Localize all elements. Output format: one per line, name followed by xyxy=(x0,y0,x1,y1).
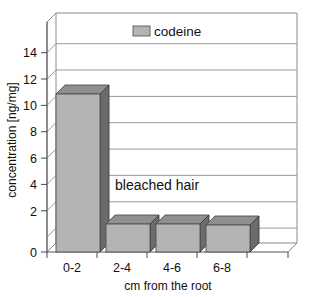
annotation-bleached-hair: bleached hair xyxy=(115,177,199,193)
x-tick-label-6-8: 6-8 xyxy=(213,261,231,275)
gridline-12-depth xyxy=(47,70,56,79)
legend-swatch-codeine xyxy=(133,26,150,36)
bar-front-2-4 xyxy=(106,224,150,252)
x-axis xyxy=(47,252,288,258)
gridline-0-depth xyxy=(47,228,56,237)
gridline-4-depth xyxy=(47,175,56,184)
gridline-10-depth xyxy=(47,96,56,105)
y-axis xyxy=(41,22,47,252)
legend: codeine xyxy=(133,24,201,39)
y-tick-label-2: 2 xyxy=(30,205,37,219)
bar-group-0-2 xyxy=(56,85,109,252)
y-tick-labels: 14 12 10 8 6 4 2 0 xyxy=(23,46,37,260)
gridline-2-depth xyxy=(47,202,56,211)
x-tick-label-2-4: 2-4 xyxy=(113,261,131,275)
y-tick-label-12: 12 xyxy=(23,73,37,87)
bar-group-6-8 xyxy=(206,216,259,252)
frame-depth-bottom-left xyxy=(47,243,56,252)
y-tick-label-4: 4 xyxy=(30,178,37,192)
bar-chart: 14 12 10 8 6 4 2 0 concentration [ng/mg]… xyxy=(0,0,312,297)
gridline-14-depth xyxy=(47,44,56,53)
gridline-8-depth xyxy=(47,123,56,132)
bar-group-4-6 xyxy=(156,215,209,252)
x-tick-label-0-2: 0-2 xyxy=(63,261,81,275)
chart-svg: 14 12 10 8 6 4 2 0 concentration [ng/mg]… xyxy=(0,0,312,297)
x-tick-label-4-6: 4-6 xyxy=(163,261,181,275)
x-tick-labels: 0-2 2-4 4-6 6-8 xyxy=(63,261,231,275)
gridline-6-depth xyxy=(47,149,56,158)
bar-front-0-2 xyxy=(56,94,100,252)
y-tick-label-10: 10 xyxy=(23,99,37,113)
frame-depth-top-left xyxy=(47,13,56,22)
y-tick-label-6: 6 xyxy=(30,152,37,166)
bar-front-4-6 xyxy=(156,224,200,252)
frame-depth-bottom-right xyxy=(288,243,297,252)
x-axis-title: cm from the root xyxy=(124,279,212,293)
legend-label-codeine: codeine xyxy=(154,24,201,39)
y-axis-title: concentration [ng/mg] xyxy=(5,82,19,197)
y-tick-label-0: 0 xyxy=(30,246,37,260)
bar-group-2-4 xyxy=(106,215,159,252)
y-tick-label-8: 8 xyxy=(30,125,37,139)
bar-front-6-8 xyxy=(206,225,250,252)
y-tick-label-14: 14 xyxy=(23,46,37,60)
